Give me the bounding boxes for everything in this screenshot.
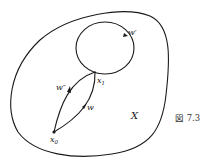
label-x1: x1 (97, 76, 105, 86)
label-region-x: X (130, 110, 139, 121)
label-w: w (87, 103, 94, 112)
point-x0 (52, 130, 55, 133)
loop-w-prime (76, 22, 134, 74)
label-w-double-prime: w″ (56, 83, 66, 92)
point-x1 (94, 71, 96, 73)
topology-diagram: w′ w″ w x1 x0 X 図 7.3 (0, 0, 216, 164)
figure-caption: 図 7.3 (175, 113, 200, 123)
path-w-double-prime (54, 72, 95, 132)
label-x0: x0 (50, 135, 59, 145)
arrow-icon (67, 86, 71, 93)
region-x-boundary (11, 12, 169, 156)
label-w-prime: w′ (128, 28, 137, 37)
path-w (54, 72, 95, 132)
